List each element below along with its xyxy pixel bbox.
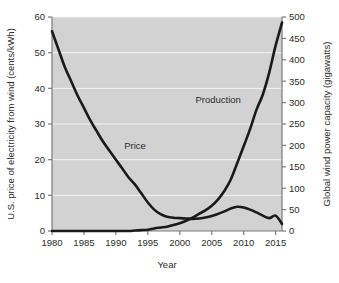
chart-canvas: 0102030405060 05010015020025030035040045… — [0, 0, 339, 283]
wind-energy-chart-figure: 0102030405060 05010015020025030035040045… — [0, 0, 339, 283]
x-axis-tick-label: 1995 — [137, 237, 158, 248]
x-axis-tick-label: 1990 — [105, 237, 126, 248]
y-axis-right-tick-label: 350 — [289, 76, 305, 87]
y-axis-left-title: U.S. price of electricity from wind (cen… — [5, 28, 16, 220]
x-axis-tick-label: 1985 — [73, 237, 94, 248]
y-axis-right-tick-label: 200 — [289, 140, 305, 151]
y-axis-right-tick-label: 450 — [289, 33, 305, 44]
x-axis-title: Year — [157, 259, 176, 270]
y-axis-right-tick-label: 500 — [289, 11, 305, 22]
y-axis-left-tick-label: 10 — [34, 190, 45, 201]
y-axis-right-tick-label: 150 — [289, 161, 305, 172]
y-axis-left-tick-label: 60 — [34, 11, 45, 22]
x-axis-tick-label: 2005 — [201, 237, 222, 248]
y-axis-right-title: Global wind power capacity (gigawatts) — [321, 42, 332, 207]
x-axis-tick-label: 2010 — [233, 237, 254, 248]
y-axis-right-tick-label: 400 — [289, 54, 305, 65]
y-axis-right-tick-label: 100 — [289, 183, 305, 194]
y-axis-left-tick-label: 50 — [34, 47, 45, 58]
price-series-label: Price — [124, 140, 146, 151]
y-axis-right-tick-label: 300 — [289, 97, 305, 108]
y-axis-right-tick-label: 0 — [289, 225, 294, 236]
y-axis-left-tick-label: 20 — [34, 154, 45, 165]
x-axis-tick-label: 2000 — [169, 237, 190, 248]
production-series-label: Production — [195, 94, 240, 105]
y-axis-right-tick-label: 50 — [289, 204, 300, 215]
x-axis-tick-label: 2015 — [265, 237, 286, 248]
y-axis-left-tick-label: 30 — [34, 118, 45, 129]
y-axis-right-tick-label: 250 — [289, 118, 305, 129]
y-axis-left-tick-label: 0 — [40, 225, 45, 236]
x-axis-tick-label: 1980 — [41, 237, 62, 248]
y-axis-left-tick-label: 40 — [34, 83, 45, 94]
